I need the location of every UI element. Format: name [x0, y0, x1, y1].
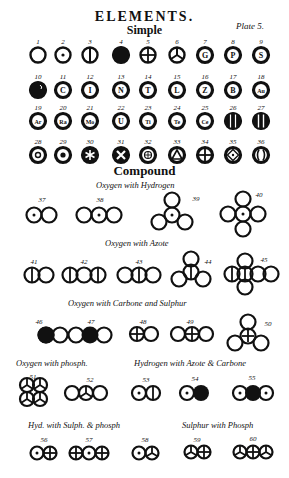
compound-41-symbol: [25, 268, 54, 283]
compound-39-symbol: [152, 193, 193, 230]
compound-42-symbol: [63, 268, 106, 283]
compound-37-symbol: [27, 208, 57, 223]
compound-53-symbol: [132, 386, 160, 400]
compound-58-symbol: [133, 447, 159, 460]
compound-diagrams: [0, 0, 289, 478]
